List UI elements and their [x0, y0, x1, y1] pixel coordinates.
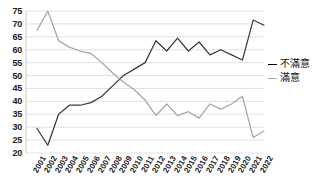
x-axis: 2001200220032004200520062007200820092010…	[0, 153, 329, 193]
y-axis-tick-label: 50	[12, 71, 22, 80]
y-axis: 202530354045505560657075	[0, 0, 26, 165]
chart-legend: 不滿意 滿意	[268, 57, 328, 85]
y-axis-tick-label: 70	[12, 19, 22, 28]
y-axis-tick-label: 60	[12, 45, 22, 54]
line-chart: 202530354045505560657075 200120022003200…	[0, 0, 329, 193]
legend-item-satisfied[interactable]: 滿意	[268, 71, 328, 85]
y-axis-tick-label: 55	[12, 58, 22, 67]
y-axis-tick-label: 25	[12, 136, 22, 145]
legend-item-dissatisfied[interactable]: 不滿意	[268, 57, 328, 71]
legend-dash-light-icon	[268, 78, 277, 79]
legend-label-satisfied: 滿意	[280, 73, 300, 83]
series-lines	[26, 11, 264, 153]
y-axis-tick-label: 40	[12, 97, 22, 106]
legend-label-dissatisfied: 不滿意	[280, 59, 310, 69]
y-axis-tick-label: 75	[12, 7, 22, 16]
y-axis-tick-label: 45	[12, 84, 22, 93]
plot-area	[26, 11, 264, 153]
legend-dash-dark-icon	[268, 64, 277, 65]
y-axis-tick-label: 65	[12, 32, 22, 41]
y-axis-tick-label: 30	[12, 123, 22, 132]
y-axis-tick-label: 35	[12, 110, 22, 119]
